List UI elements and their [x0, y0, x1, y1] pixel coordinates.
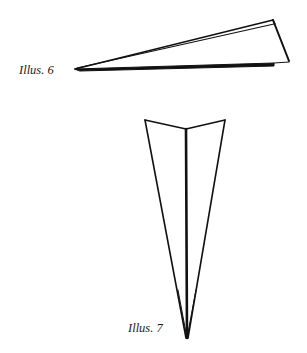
illus-6-airplane-side-view [75, 20, 289, 71]
illus-7-airplane-top-view [145, 120, 225, 338]
illus-6-caption: Illus. 6 [19, 64, 54, 77]
illustrations-svg [0, 0, 307, 353]
diagram-canvas: Illus. 6 Illus. 7 [0, 0, 307, 353]
illus-7-caption: Illus. 7 [128, 322, 163, 335]
